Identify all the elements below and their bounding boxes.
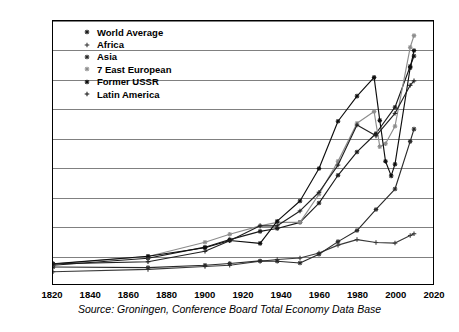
data-point-marker [227,261,232,266]
data-point-marker [408,65,413,70]
data-point-marker [298,199,303,204]
data-point-marker [372,109,377,114]
legend-marker-icon [80,51,94,63]
data-point-marker [203,249,208,254]
data-point-marker [355,94,360,99]
data-point-marker [85,30,90,35]
data-point-marker [393,162,398,167]
series-asia [53,127,416,270]
data-point-marker [383,141,388,146]
source-caption: Source: Groningen, Conference Board Tota… [0,303,459,315]
legend-item-africa: Africa [80,38,171,50]
data-point-marker [393,124,398,129]
legend-marker-icon [80,76,94,88]
legend-marker-icon [80,63,94,75]
data-point-marker [317,252,322,257]
data-point-marker [389,174,394,179]
series-latin-america [53,79,416,266]
legend-label: Asia [94,51,117,62]
data-point-marker [355,150,360,155]
data-point-marker [298,220,303,225]
data-point-marker [298,261,303,266]
legend-label: Former USSR [94,76,159,87]
data-point-marker [85,55,90,60]
data-point-marker [203,263,208,268]
data-point-marker [85,92,90,97]
data-point-marker [53,269,55,274]
legend-label: World Average [94,27,163,38]
data-point-marker [336,173,341,178]
data-point-marker [298,256,303,261]
data-point-marker [146,254,151,259]
legend-item-latin-america: Latin America [80,88,171,100]
data-point-marker [383,159,388,164]
data-point-marker [85,42,90,47]
chart-figure: $0$1,000$2,000$3,000$4,000$5,000$6,000$7… [0,0,459,332]
legend-item-asia: Asia [80,51,171,63]
data-point-marker [146,260,151,265]
data-point-marker [412,48,417,53]
legend-label: 7 East European [94,64,171,75]
data-point-marker [408,139,413,144]
data-point-marker [275,259,280,264]
data-point-marker [203,240,208,245]
data-point-marker [408,45,413,50]
legend-label: Africa [94,39,124,50]
legend-item-former-ussr: Former USSR [80,76,171,88]
data-point-marker [393,105,398,110]
data-point-marker [317,166,322,171]
data-point-marker [355,237,360,242]
data-point-marker [275,219,280,224]
data-point-marker [258,259,263,264]
legend-marker-icon [80,26,94,38]
legend-item-7-east-european: 7 East European [80,63,171,75]
data-point-marker [393,187,398,192]
data-point-marker [378,144,383,149]
data-point-marker [258,241,263,246]
chart-legend: World AverageAfricaAsia7 East EuropeanFo… [80,26,171,100]
data-point-marker [336,119,341,124]
x-axis-tick-label: 2020 [411,289,457,300]
data-point-marker [85,79,90,84]
data-point-marker [378,118,383,123]
legend-label: Latin America [94,89,159,100]
data-point-marker [412,127,417,132]
data-point-marker [374,207,379,212]
data-point-marker [372,75,377,80]
legend-marker-icon [80,88,94,100]
data-point-marker [393,241,398,246]
data-point-marker [227,232,232,237]
data-point-marker [146,265,151,270]
series-line [53,81,414,264]
data-point-marker [317,201,322,206]
legend-marker-icon [80,39,94,51]
data-point-marker [85,67,90,72]
legend-item-world-average: World Average [80,26,171,38]
data-point-marker [258,229,263,234]
data-point-marker [336,239,341,244]
data-point-marker [412,33,417,38]
data-point-marker [355,228,360,233]
data-point-marker [374,240,379,245]
